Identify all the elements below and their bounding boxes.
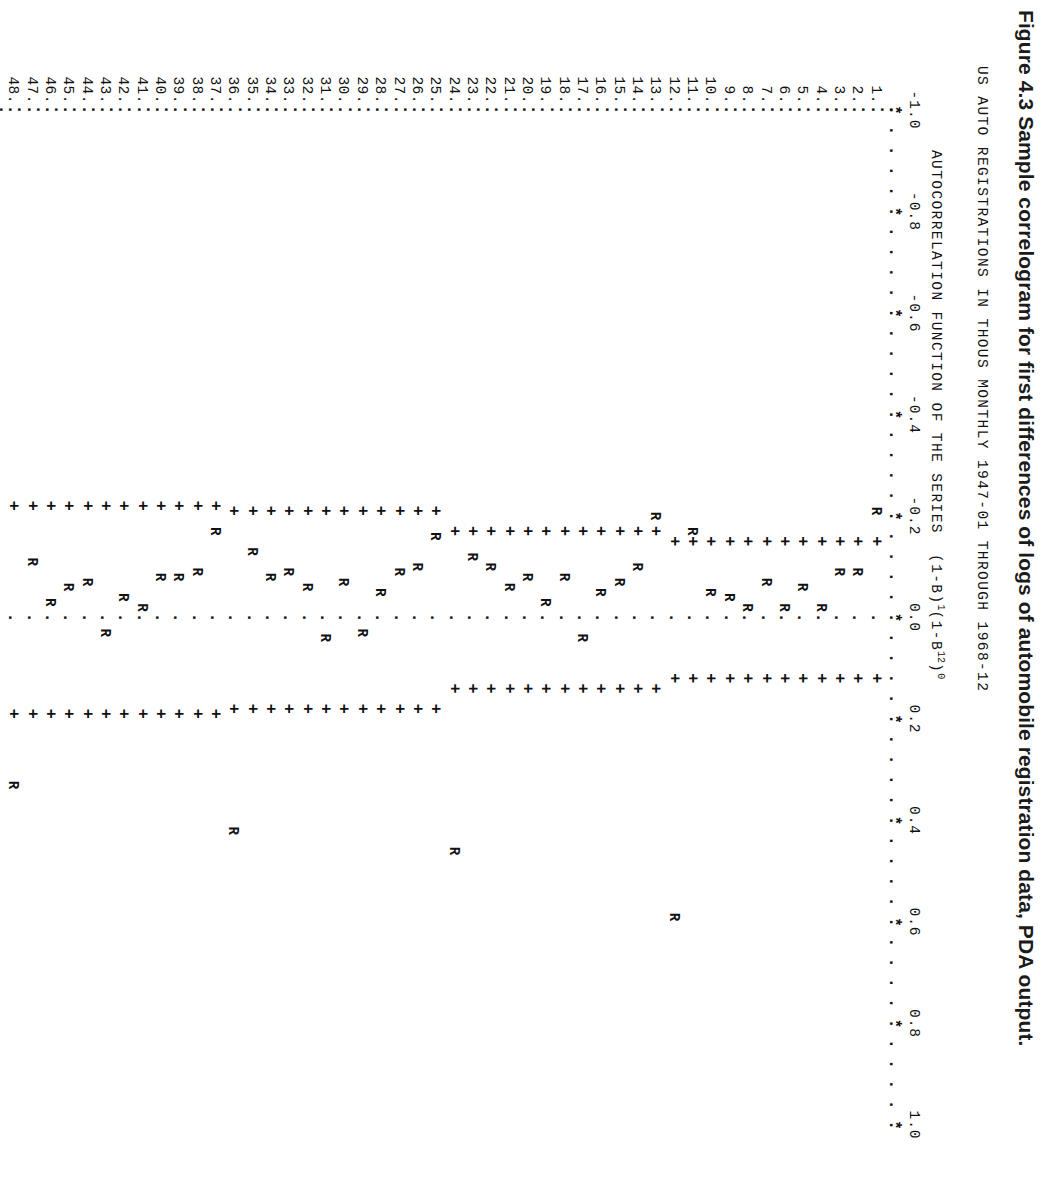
confidence-band-lower: + xyxy=(188,501,205,511)
axis-tick-label: -0.2 xyxy=(906,497,922,536)
autocorrelation-value: R xyxy=(538,598,552,606)
confidence-band-upper: + xyxy=(592,683,609,693)
zero-line-dot: . xyxy=(739,612,756,622)
confidence-band-lower: + xyxy=(225,506,242,516)
zero-line-dot: . xyxy=(849,612,866,622)
axis-rule-dot: . xyxy=(886,653,903,663)
confidence-band-upper: + xyxy=(867,673,884,683)
autocorrelation-value: R xyxy=(465,552,479,560)
lag-label: 12. xyxy=(666,76,682,104)
confidence-band-upper: + xyxy=(188,709,205,719)
lag-label: 7. xyxy=(758,86,774,104)
autocorrelation-value: R xyxy=(869,507,883,515)
axis-rule-dot: . xyxy=(886,897,903,907)
axis-tick-label: -0.4 xyxy=(906,395,922,434)
confidence-band-upper: + xyxy=(702,673,719,683)
confidence-band-upper: + xyxy=(335,704,352,714)
autocorrelation-value: R xyxy=(740,603,754,611)
zero-line-dot: . xyxy=(78,612,95,622)
confidence-band-upper: + xyxy=(225,704,242,714)
axis-rule-dot: . xyxy=(886,369,903,379)
zero-line-dot: . xyxy=(152,612,169,622)
zero-line-dot: . xyxy=(262,612,279,622)
acf-correlogram-plot: ........................................… xyxy=(0,0,1052,1188)
autocorrelation-value: R xyxy=(850,568,864,576)
axis-rule-dot: . xyxy=(886,551,903,561)
confidence-band-lower: + xyxy=(317,506,334,516)
confidence-band-upper: + xyxy=(133,709,150,719)
lag-label: 46. xyxy=(42,76,58,104)
confidence-band-upper: + xyxy=(629,683,646,693)
lag-label: 44. xyxy=(79,76,95,104)
axis-tick-label: 0.6 xyxy=(906,907,922,936)
confidence-band-lower: + xyxy=(280,506,297,516)
autocorrelation-value: R xyxy=(814,603,828,611)
lag-label: 16. xyxy=(592,76,608,104)
autocorrelation-value: R xyxy=(575,634,589,642)
confidence-band-lower: + xyxy=(592,526,609,536)
lag-label: 23. xyxy=(464,76,480,104)
confidence-band-lower: + xyxy=(262,506,279,516)
axis-tick-star: * xyxy=(886,714,902,724)
axis-tick-label: 1.0 xyxy=(906,1110,922,1139)
lag-label: 35. xyxy=(244,76,260,104)
confidence-band-lower: + xyxy=(298,506,315,516)
axis-tick-star: * xyxy=(886,511,902,521)
zero-line-dot: . xyxy=(647,612,664,622)
lag-label: 39. xyxy=(170,76,186,104)
confidence-band-lower: + xyxy=(207,501,224,511)
autocorrelation-value: R xyxy=(392,568,406,576)
zero-line-dot: . xyxy=(592,612,609,622)
confidence-band-upper: + xyxy=(280,704,297,714)
zero-line-dot: . xyxy=(629,612,646,622)
axis-rule-dot: . xyxy=(886,430,903,440)
confidence-band-upper: + xyxy=(684,673,701,683)
axis-rule-dot: . xyxy=(886,1100,903,1110)
zero-line-dot: . xyxy=(720,612,737,622)
lag-label: 10. xyxy=(703,76,719,104)
confidence-band-lower: + xyxy=(629,526,646,536)
axis-tick-label: -0.6 xyxy=(906,294,922,333)
confidence-band-upper: + xyxy=(170,709,187,719)
lag-label: 37. xyxy=(207,76,223,104)
confidence-band-lower: + xyxy=(170,501,187,511)
autocorrelation-value: R xyxy=(171,573,185,581)
autocorrelation-value: R xyxy=(153,573,167,581)
zero-line-dot: . xyxy=(610,612,627,622)
axis-rule-dot: . xyxy=(886,1059,903,1069)
autocorrelation-value: R xyxy=(373,588,387,596)
autocorrelation-value: R xyxy=(318,634,332,642)
confidence-band-lower: + xyxy=(78,501,95,511)
confidence-band-upper: + xyxy=(794,673,811,683)
axis-tick-star: * xyxy=(886,207,902,217)
zero-line-dot: . xyxy=(757,612,774,622)
axis-rule-dot: . xyxy=(886,572,903,582)
autocorrelation-value: R xyxy=(135,603,149,611)
axis-tick-star: * xyxy=(886,1019,902,1029)
zero-line-dot: . xyxy=(408,612,425,622)
confidence-band-upper: + xyxy=(519,683,536,693)
autocorrelation-value: R xyxy=(410,563,424,571)
axis-rule-dot: . xyxy=(886,734,903,744)
zero-line-dot: . xyxy=(482,612,499,622)
confidence-band-lower: + xyxy=(574,526,591,536)
axis-rule-dot: . xyxy=(886,531,903,541)
confidence-band-upper: + xyxy=(720,673,737,683)
confidence-band-lower: + xyxy=(775,536,792,546)
confidence-band-upper: + xyxy=(500,683,517,693)
confidence-band-lower: + xyxy=(849,536,866,546)
autocorrelation-value: R xyxy=(667,913,681,921)
axis-tick-label: 0.0 xyxy=(906,603,922,632)
confidence-band-lower: + xyxy=(684,536,701,546)
axis-rule-dot: . xyxy=(886,673,903,683)
autocorrelation-value: R xyxy=(759,578,773,586)
axis-tick-label: 0.8 xyxy=(906,1009,922,1038)
confidence-band-upper: + xyxy=(812,673,829,683)
lag-label: 31. xyxy=(317,76,333,104)
axis-tick-star: * xyxy=(886,917,902,927)
autocorrelation-value: R xyxy=(43,598,57,606)
axis-rule-dot: . xyxy=(886,247,903,257)
autocorrelation-value: R xyxy=(25,557,39,565)
lag-label: 26. xyxy=(409,76,425,104)
axis-rule-dot: . xyxy=(886,470,903,480)
